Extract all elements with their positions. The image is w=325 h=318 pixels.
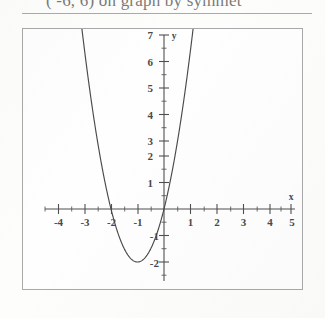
x-axis-group: -4 -3 -2 -1 1 2 3 4 5 x xyxy=(45,192,295,228)
page-header-text: ( -6, 6) on graph by symmet xyxy=(46,0,325,13)
y-tick-label: 4 xyxy=(148,109,154,121)
y-tick-label: 3 xyxy=(148,135,154,147)
y-tick-label: 7 xyxy=(148,29,154,41)
y-tick-label: 6 xyxy=(148,56,154,68)
y-axis-name-label: y xyxy=(172,31,177,41)
scanned-page: ( -6, 6) on graph by symmet xyxy=(0,0,325,318)
header-divider-rule xyxy=(22,13,312,14)
x-tick-label: -4 xyxy=(54,216,64,228)
y-tick-label: 5 xyxy=(148,82,154,94)
x-tick-label: 4 xyxy=(267,216,273,228)
coordinate-plane-graph: -4 -3 -2 -1 1 2 3 4 5 x xyxy=(23,29,303,290)
x-tick-label: -3 xyxy=(80,216,90,228)
x-axis-name-label: x xyxy=(289,192,294,202)
y-axis-group: 7 6 5 4 3 2 1 -1 -2 y xyxy=(148,29,177,281)
x-tick-label: 3 xyxy=(241,216,247,228)
x-tick-label: 1 xyxy=(188,216,194,228)
y-tick-label: 1 xyxy=(148,177,154,189)
graph-frame: -4 -3 -2 -1 1 2 3 4 5 x xyxy=(22,28,303,290)
y-tick-label: -2 xyxy=(150,257,160,269)
y-tick-label: 2 xyxy=(148,150,154,162)
x-tick-label: 2 xyxy=(214,216,220,228)
x-tick-label: -1 xyxy=(133,216,142,228)
x-tick-label: 5 xyxy=(289,216,295,228)
